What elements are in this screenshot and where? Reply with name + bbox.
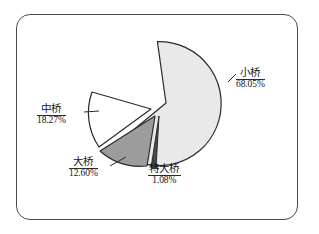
slice-label-tedaqiao-percent: 1.08% <box>148 176 181 186</box>
slice-label-zhongqiao-name: 中桥 <box>37 103 66 116</box>
slice-label-daqiao-percent: 12.60% <box>69 169 98 179</box>
slice-label-zhongqiao-percent: 18.27% <box>37 116 66 126</box>
slice-label-tedaqiao-name: 特大桥 <box>148 163 181 176</box>
slice-label-xiaoqiao-percent: 68.05% <box>236 80 265 90</box>
slice-label-tedaqiao: 特大桥 1.08% <box>148 163 181 186</box>
slice-label-xiaoqiao: 小桥 68.05% <box>236 67 265 90</box>
slice-label-daqiao-name: 大桥 <box>69 156 98 169</box>
slice-label-zhongqiao: 中桥 18.27% <box>37 103 66 126</box>
leader-line-xiaoqiao <box>228 74 236 82</box>
slice-label-daqiao: 大桥 12.60% <box>69 156 98 179</box>
pie-chart-page: 小桥 68.05% 中桥 18.27% 大桥 12.60% 特大桥 1.08% <box>0 0 319 234</box>
slice-label-xiaoqiao-name: 小桥 <box>236 67 265 80</box>
